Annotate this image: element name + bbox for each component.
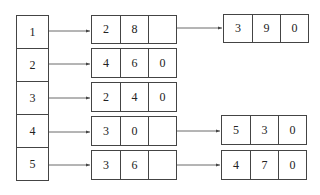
node-cell: 0: [120, 116, 149, 146]
index-label: 2: [30, 58, 36, 73]
node-pointer-cell: 0: [148, 48, 177, 78]
node-value: 2: [103, 22, 109, 37]
node-value: 3: [103, 124, 109, 139]
node-pointer-cell: 0: [278, 115, 307, 145]
node-value: 0: [290, 123, 296, 138]
index-label: 1: [30, 25, 36, 40]
node-cell: 6: [120, 48, 149, 78]
node-value: 3: [235, 21, 241, 36]
node-cell: 4: [221, 150, 251, 180]
node-value: 8: [132, 22, 138, 37]
index-cell-5: 5: [16, 147, 49, 181]
node-cell: 6: [120, 150, 149, 180]
node-value: 0: [132, 124, 138, 139]
index-cell-3: 3: [16, 81, 49, 115]
node-value: 3: [103, 158, 109, 173]
node-cell: 7: [250, 150, 279, 180]
node-value: 4: [233, 158, 239, 173]
index-label: 4: [30, 124, 36, 139]
node-cell: 3: [223, 14, 253, 43]
index-label: 5: [30, 157, 36, 172]
node-value: 0: [160, 90, 166, 105]
adjacency-list-diagram: 1 2 3 4 5 2 8 3 9 0 4 6 0 2 4 0 3 0 5 3 …: [0, 0, 320, 195]
node-value: 3: [262, 123, 268, 138]
node-cell: 5: [221, 115, 251, 145]
node-value: 0: [292, 21, 298, 36]
node-cell: 2: [91, 82, 121, 112]
index-label: 3: [30, 91, 36, 106]
node-pointer-cell: 0: [278, 150, 307, 180]
node-value: 0: [290, 158, 296, 173]
node-cell: 3: [91, 150, 121, 180]
node-value: 0: [160, 56, 166, 71]
node-pointer-cell: 0: [280, 14, 309, 43]
node-cell: 4: [120, 82, 149, 112]
node-cell: 2: [91, 15, 121, 44]
node-pointer-cell: [148, 116, 177, 146]
node-cell: 3: [91, 116, 121, 146]
node-value: 2: [103, 90, 109, 105]
node-value: 6: [132, 56, 138, 71]
index-cell-4: 4: [16, 114, 49, 148]
node-pointer-cell: [148, 150, 177, 180]
node-value: 7: [262, 158, 268, 173]
node-cell: 8: [120, 15, 149, 44]
node-cell: 9: [252, 14, 281, 43]
node-value: 6: [132, 158, 138, 173]
node-pointer-cell: 0: [148, 82, 177, 112]
node-cell: 4: [91, 48, 121, 78]
node-value: 9: [264, 21, 270, 36]
node-cell: 3: [250, 115, 279, 145]
index-cell-2: 2: [16, 48, 49, 82]
index-cell-1: 1: [16, 15, 49, 49]
node-value: 5: [233, 123, 239, 138]
node-value: 4: [132, 90, 138, 105]
node-pointer-cell: [148, 15, 177, 44]
node-value: 4: [103, 56, 109, 71]
